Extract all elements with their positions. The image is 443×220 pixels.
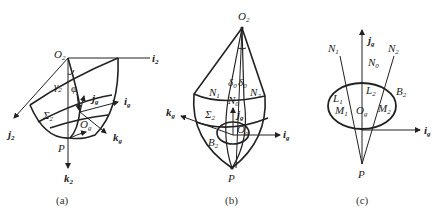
svg-text:j2: j2 xyxy=(6,128,15,142)
svg-text:Σ2: Σ2 xyxy=(42,109,54,123)
svg-text:N0: N0 xyxy=(227,94,239,108)
svg-text:δ0: δ0 xyxy=(228,76,237,90)
svg-text:jg: jg xyxy=(90,92,99,106)
svg-text:P: P xyxy=(57,142,65,154)
svg-text:(b): (b) xyxy=(225,194,238,207)
svg-text:L2: L2 xyxy=(365,84,376,98)
svg-text:Σ2: Σ2 xyxy=(204,108,216,122)
svg-text:k2: k2 xyxy=(64,172,74,186)
panel-b-labels: O2 N1 N0 N2 δ0 δ0 Σ2 B2 Og ig jg kg P (b… xyxy=(166,10,290,207)
svg-text:ig: ig xyxy=(424,124,431,138)
svg-text:B2: B2 xyxy=(396,85,407,99)
svg-text:(a): (a) xyxy=(56,194,69,207)
svg-text:jg: jg xyxy=(235,108,244,122)
svg-text:kg: kg xyxy=(166,106,176,120)
svg-text:N1: N1 xyxy=(208,86,220,100)
svg-text:P: P xyxy=(357,168,365,180)
svg-text:Og: Og xyxy=(356,104,368,118)
svg-text:N2: N2 xyxy=(387,42,399,56)
panel-c-labels: N1 jg N2 N0 L2 B2 L1 M1 Og M2 ig P (c) xyxy=(327,34,431,207)
svg-text:N1: N1 xyxy=(327,42,339,56)
svg-text:P: P xyxy=(227,172,235,184)
svg-text:O2: O2 xyxy=(238,10,250,24)
svg-text:i2: i2 xyxy=(152,52,159,66)
svg-text:N0: N0 xyxy=(367,56,379,70)
svg-text:M2: M2 xyxy=(377,102,391,116)
svg-text:M1: M1 xyxy=(334,104,348,118)
svg-text:(c): (c) xyxy=(356,194,369,207)
svg-text:jg: jg xyxy=(366,34,375,48)
svg-text:kg: kg xyxy=(113,131,123,145)
svg-text:γ2: γ2 xyxy=(54,80,62,94)
apex-point xyxy=(240,26,243,29)
svg-text:N2: N2 xyxy=(249,86,261,100)
panel-a-labels: O2 i2 j2 k2 γ2 φ Σ2 Og ig jg kg P (a) xyxy=(6,48,159,207)
svg-text:ig: ig xyxy=(283,128,290,142)
svg-text:O2: O2 xyxy=(54,48,66,62)
svg-text:B2: B2 xyxy=(208,136,219,150)
panel-a xyxy=(14,58,150,168)
svg-text:δ0: δ0 xyxy=(238,76,247,90)
p-point xyxy=(230,166,233,169)
axis-jg-line xyxy=(80,96,84,112)
figure-canvas: O2 i2 j2 k2 γ2 φ Σ2 Og ig jg kg P (a) O2… xyxy=(0,0,443,220)
svg-text:ig: ig xyxy=(124,95,131,109)
svg-text:φ: φ xyxy=(71,82,77,94)
